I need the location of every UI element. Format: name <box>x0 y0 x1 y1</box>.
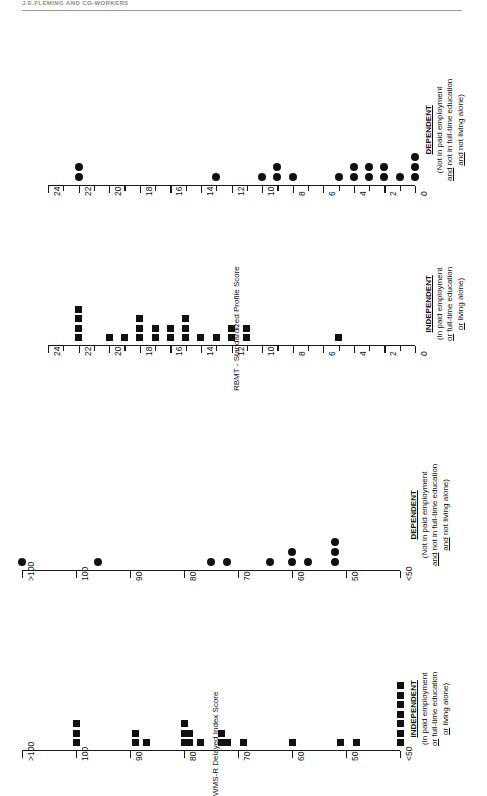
data-marker-circle <box>273 173 281 181</box>
axis-tick <box>262 346 263 353</box>
axis-tick <box>247 346 248 351</box>
data-marker-square <box>397 720 404 727</box>
axis-tick-label: 20 <box>113 187 123 196</box>
axis-tick-label: 60 <box>296 752 306 761</box>
axis-tick-label: 8 <box>297 351 307 356</box>
data-marker-square <box>182 334 189 341</box>
data-marker-square <box>132 730 139 737</box>
axis-tick-label: 8 <box>297 191 307 196</box>
axis-tick-label: 22 <box>83 347 93 356</box>
axis-tick-label: 90 <box>134 752 144 761</box>
axis-tick <box>400 346 401 351</box>
data-marker-square <box>136 325 143 332</box>
data-marker-circle <box>365 173 373 181</box>
axis-tick-label: 70 <box>242 572 252 581</box>
axis-tick <box>201 346 202 353</box>
axis-tick <box>130 571 131 578</box>
data-marker-circle <box>335 173 343 181</box>
axis-tick-label: 10 <box>266 347 276 356</box>
group-label-dependent: DEPENDENT(Not in paid employmentand not … <box>424 79 466 181</box>
data-marker-circle <box>289 173 297 181</box>
axis-tick <box>384 346 385 353</box>
axis-tick-label: 4 <box>358 191 368 196</box>
data-marker-circle <box>411 163 419 171</box>
axis-tick <box>216 346 217 351</box>
data-marker-square <box>181 720 188 727</box>
axis-tick <box>184 751 185 758</box>
axis-tick <box>155 186 156 191</box>
axis-tick <box>140 186 141 193</box>
axis-tick-label: 24 <box>52 187 62 196</box>
data-marker-circle <box>331 548 339 556</box>
data-marker-square <box>182 325 189 332</box>
data-marker-circle <box>212 173 220 181</box>
axis-tick <box>76 571 77 578</box>
axis-tick <box>94 346 95 351</box>
data-marker-circle <box>380 163 388 171</box>
axis-tick-label: <50 <box>404 567 414 581</box>
data-marker-square <box>167 325 174 332</box>
axis-tick-label: 0 <box>419 191 429 196</box>
data-marker-circle <box>288 548 296 556</box>
data-marker-square <box>132 739 139 746</box>
axis-tick <box>354 346 355 353</box>
axis-tick <box>238 751 239 758</box>
axis-tick <box>140 346 141 353</box>
axis-tick-label: 14 <box>205 187 215 196</box>
data-marker-square <box>353 739 360 746</box>
axis-tick-label: >100 <box>26 742 36 761</box>
data-marker-square <box>397 692 404 699</box>
data-marker-square <box>186 739 193 746</box>
axis-tick <box>124 346 125 351</box>
axis-tick-label: 80 <box>188 752 198 761</box>
data-marker-square <box>397 730 404 737</box>
axis-tick <box>292 571 293 578</box>
axis-tick-label: 18 <box>144 187 154 196</box>
axis-tick <box>346 571 347 578</box>
data-marker-square <box>197 739 204 746</box>
data-marker-circle <box>396 173 404 181</box>
axis-tick <box>155 346 156 351</box>
data-marker-square <box>106 334 113 341</box>
axis-tick <box>94 186 95 191</box>
data-marker-circle <box>207 558 215 566</box>
axis-tick <box>79 346 80 353</box>
data-marker-square <box>136 334 143 341</box>
axis-tick <box>323 346 324 353</box>
data-marker-circle <box>288 558 296 566</box>
data-marker-circle <box>350 163 358 171</box>
axis-tick-label: 22 <box>83 187 93 196</box>
axis-tick-label: 10 <box>266 187 276 196</box>
axis-tick <box>130 751 131 758</box>
data-marker-circle <box>365 163 373 171</box>
axis-tick <box>186 186 187 191</box>
data-marker-square <box>243 325 250 332</box>
data-marker-square <box>337 739 344 746</box>
axis-tick <box>400 571 401 578</box>
axis-tick-label: 0 <box>419 351 429 356</box>
axis-tick-label: 50 <box>350 752 360 761</box>
axis-tick <box>339 346 340 351</box>
axis-tick <box>216 186 217 191</box>
axis-tick <box>238 571 239 578</box>
axis-tick <box>262 186 263 193</box>
data-marker-square <box>73 739 80 746</box>
data-marker-square <box>213 334 220 341</box>
axis-tick-label: 20 <box>113 347 123 356</box>
axis-tick-label: 18 <box>144 347 154 356</box>
axis-tick-label: 4 <box>358 351 368 356</box>
axis-tick-label: <50 <box>404 747 414 761</box>
axis-tick <box>22 751 23 758</box>
group-label-dependent: DEPENDENT(Not in paid employmentand not … <box>409 464 451 566</box>
data-marker-circle <box>380 173 388 181</box>
data-marker-circle <box>258 173 266 181</box>
axis-tick <box>79 186 80 193</box>
axis-tick <box>232 186 233 193</box>
data-marker-square <box>152 325 159 332</box>
axis-tick <box>384 186 385 193</box>
data-marker-circle <box>411 173 419 181</box>
axis-tick-label: 2 <box>388 351 398 356</box>
axis-tick <box>308 186 309 191</box>
data-marker-square <box>75 306 82 313</box>
